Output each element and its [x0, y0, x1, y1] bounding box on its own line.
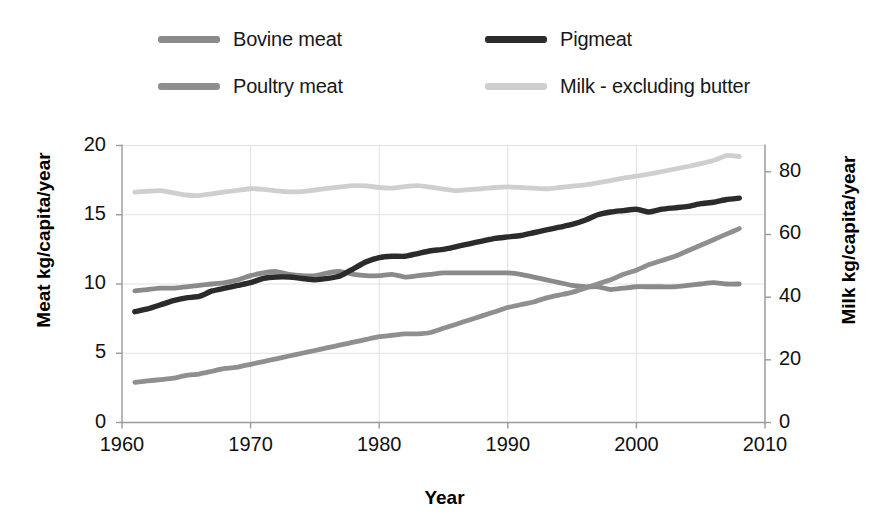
y-axis-right-tick-label: 80: [779, 159, 825, 182]
plot-area: Meat kg/capita/year Milk kg/capita/year …: [0, 0, 889, 528]
y-axis-left-tick-label: 20: [66, 133, 106, 156]
y-axis-left-tick-label: 10: [66, 271, 106, 294]
series-line-milk-excluding-butter: [135, 155, 739, 195]
y-axis-right-title: Milk kg/capita/year: [838, 110, 860, 370]
y-axis-right-tick-label: 40: [779, 284, 825, 307]
chart-root: Bovine meat Pigmeat Poultry meat Milk - …: [0, 0, 889, 528]
x-axis-tick-label: 1990: [468, 433, 548, 456]
x-axis-tick-label: 2000: [596, 433, 676, 456]
x-axis-title: Year: [0, 487, 889, 509]
x-axis-tick-label: 1960: [82, 433, 162, 456]
y-axis-left-tick-label: 15: [66, 202, 106, 225]
x-axis-tick-label: 2010: [725, 433, 805, 456]
y-axis-right-tick-label: 60: [779, 221, 825, 244]
y-axis-right-tick-label: 20: [779, 347, 825, 370]
y-axis-left-tick-label: 0: [66, 410, 106, 433]
y-axis-right-tick-label: 0: [779, 410, 825, 433]
y-axis-left-tick-label: 5: [66, 340, 106, 363]
x-axis-tick-label: 1980: [339, 433, 419, 456]
x-axis-tick-label: 1970: [211, 433, 291, 456]
y-axis-left-title: Meat kg/capita/year: [33, 110, 55, 370]
